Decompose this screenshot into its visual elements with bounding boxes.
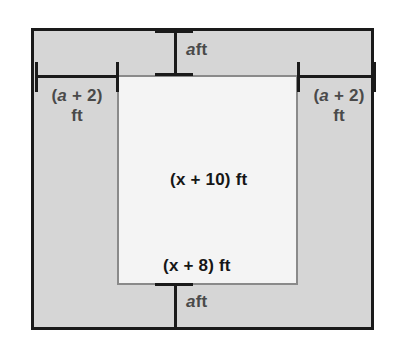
inner-height-label-unit: ft: [236, 170, 248, 189]
bottom-border-dimension-line: [174, 285, 177, 330]
left-border-label: (a + 2) ft: [38, 86, 116, 126]
right-border-label-unit: ft: [333, 106, 345, 125]
bottom-border-label: aft: [186, 292, 207, 312]
left-border-label-expression: (a + 2): [51, 86, 102, 105]
inner-width-label-rest: + 8): [179, 256, 215, 275]
top-border-dimension-line: [174, 31, 177, 76]
inner-width-label: (x + 8) ft: [163, 256, 231, 276]
bottom-border-label-unit: ft: [196, 292, 208, 311]
bottom-border-label-variable: a: [186, 292, 196, 311]
left-border-dimension-cap-end: [116, 62, 119, 92]
inner-height-label-rest: + 10): [186, 170, 231, 189]
top-border-dimension-cap-upper: [155, 30, 193, 33]
right-border-dimension-line: [298, 75, 376, 78]
top-border-dimension-cap-lower: [155, 73, 193, 76]
left-border-label-expression-rest: + 2): [67, 86, 103, 105]
geometry-figure: aft aft (a + 2) ft (a + 2) ft (x + 10) f…: [0, 0, 404, 354]
inner-height-label-variable: x: [176, 170, 186, 189]
top-border-label-variable: a: [186, 40, 196, 59]
left-border-label-variable: a: [57, 86, 67, 105]
right-border-label-expression-rest: + 2): [329, 86, 365, 105]
bottom-border-dimension-cap-upper: [155, 283, 193, 286]
left-border-label-unit: ft: [71, 106, 83, 125]
inner-width-label-variable: x: [169, 256, 179, 275]
inner-height-label: (x + 10) ft: [170, 170, 247, 190]
right-border-label: (a + 2) ft: [300, 86, 378, 126]
right-border-label-expression: (a + 2): [313, 86, 364, 105]
inner-width-label-unit: ft: [219, 256, 231, 275]
left-border-dimension-line: [36, 75, 118, 78]
right-border-label-variable: a: [319, 86, 329, 105]
top-border-label: aft: [186, 40, 207, 60]
bottom-border-dimension-cap-lower: [155, 327, 193, 330]
top-border-label-unit: ft: [196, 40, 208, 59]
